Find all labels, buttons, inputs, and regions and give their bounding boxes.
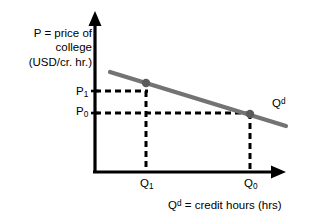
x-tick-label-q0-subscript: 0 bbox=[253, 182, 258, 191]
demand-curve-figure: P = price of college (USD/cr. hr.) P1 P0… bbox=[0, 0, 310, 224]
demand-curve-label-base: Q bbox=[272, 97, 281, 109]
x-axis-title: Qd = credit hours (hrs) bbox=[168, 198, 282, 212]
y-axis-title-line-1: P = price of bbox=[4, 26, 92, 40]
y-tick-label-p1: P1 bbox=[76, 84, 88, 98]
y-axis-title-line-2: college bbox=[4, 40, 92, 54]
x-axis-title-superscript: d bbox=[177, 199, 182, 208]
demand-curve-label: Qd bbox=[272, 96, 286, 110]
x-axis-title-base: Q bbox=[168, 199, 177, 211]
y-axis-title: P = price of college (USD/cr. hr.) bbox=[4, 26, 92, 69]
x-tick-label-q1-base: Q bbox=[140, 177, 149, 189]
x-tick-label-q1-subscript: 1 bbox=[149, 182, 154, 191]
point-marker-q0-p0 bbox=[246, 110, 254, 118]
y-tick-label-p0-subscript: 0 bbox=[84, 110, 89, 119]
x-tick-label-q0: Q0 bbox=[244, 176, 258, 190]
x-tick-label-q0-base: Q bbox=[244, 177, 253, 189]
x-tick-label-q1: Q1 bbox=[140, 176, 154, 190]
point-marker-q1-p1 bbox=[142, 79, 150, 87]
y-tick-label-p1-subscript: 1 bbox=[84, 90, 89, 99]
x-axis-title-rest: = credit hours (hrs) bbox=[182, 199, 282, 211]
y-tick-label-p0: P0 bbox=[76, 104, 88, 118]
y-tick-label-p0-base: P bbox=[76, 105, 84, 117]
y-axis-title-line-3: (USD/cr. hr.) bbox=[4, 55, 92, 69]
x-axis-arrowhead bbox=[271, 166, 286, 179]
y-axis-arrowhead bbox=[89, 11, 102, 26]
y-tick-label-p1-base: P bbox=[76, 85, 84, 97]
demand-curve-label-superscript: d bbox=[281, 97, 286, 106]
demand-curve-line bbox=[110, 72, 286, 126]
